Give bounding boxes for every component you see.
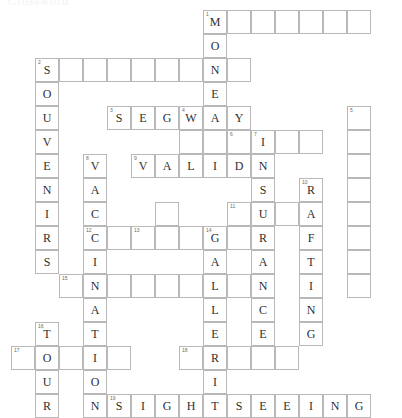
crossword-cell[interactable] — [227, 58, 251, 82]
crossword-cell[interactable] — [347, 154, 371, 178]
crossword-cell[interactable] — [347, 226, 371, 250]
crossword-cell[interactable]: L — [203, 274, 227, 298]
crossword-cell[interactable] — [323, 10, 347, 34]
crossword-cell[interactable]: N — [203, 58, 227, 82]
crossword-cell[interactable] — [275, 346, 299, 370]
crossword-cell[interactable]: 17 — [11, 346, 35, 370]
crossword-cell[interactable]: Y — [227, 106, 251, 130]
crossword-cell[interactable] — [83, 58, 107, 82]
crossword-cell[interactable]: O — [203, 34, 227, 58]
crossword-cell[interactable] — [347, 274, 371, 298]
crossword-cell[interactable]: 18 — [179, 346, 203, 370]
crossword-cell[interactable] — [59, 346, 83, 370]
crossword-cell[interactable] — [179, 58, 203, 82]
crossword-cell[interactable]: U — [35, 370, 59, 394]
crossword-cell[interactable]: A — [251, 250, 275, 274]
crossword-cell[interactable]: E — [251, 322, 275, 346]
crossword-cell[interactable]: I — [131, 394, 155, 418]
crossword-cell[interactable]: 15 — [59, 274, 83, 298]
crossword-cell[interactable]: N — [299, 298, 323, 322]
crossword-cell[interactable]: L — [179, 154, 203, 178]
crossword-cell[interactable] — [275, 202, 299, 226]
crossword-cell[interactable]: R — [203, 346, 227, 370]
crossword-cell[interactable]: G — [155, 106, 179, 130]
crossword-cell[interactable] — [227, 346, 251, 370]
crossword-cell[interactable]: V — [35, 130, 59, 154]
crossword-cell[interactable]: I — [203, 154, 227, 178]
crossword-cell[interactable]: A — [83, 298, 107, 322]
crossword-cell[interactable] — [131, 58, 155, 82]
crossword-cell[interactable] — [227, 274, 251, 298]
crossword-cell[interactable]: S — [227, 394, 251, 418]
crossword-cell[interactable]: U — [35, 106, 59, 130]
crossword-cell[interactable] — [155, 226, 179, 250]
crossword-cell[interactable]: N — [251, 154, 275, 178]
crossword-cell[interactable]: E — [251, 394, 275, 418]
crossword-cell[interactable]: 14G — [203, 226, 227, 250]
crossword-cell[interactable]: R — [35, 394, 59, 418]
crossword-cell[interactable] — [155, 58, 179, 82]
crossword-cell[interactable] — [179, 274, 203, 298]
crossword-cell[interactable] — [227, 10, 251, 34]
crossword-cell[interactable]: T — [203, 394, 227, 418]
crossword-cell[interactable]: 16T — [35, 322, 59, 346]
crossword-cell[interactable] — [299, 130, 323, 154]
crossword-cell[interactable]: N — [323, 394, 347, 418]
crossword-cell[interactable]: G — [299, 322, 323, 346]
crossword-cell[interactable]: C — [83, 202, 107, 226]
crossword-cell[interactable]: T — [83, 322, 107, 346]
crossword-cell[interactable]: R — [251, 226, 275, 250]
crossword-cell[interactable]: A — [155, 154, 179, 178]
crossword-cell[interactable]: U — [251, 202, 275, 226]
crossword-cell[interactable]: I — [299, 394, 323, 418]
crossword-cell[interactable]: N — [35, 178, 59, 202]
crossword-cell[interactable] — [155, 274, 179, 298]
crossword-cell[interactable] — [347, 202, 371, 226]
crossword-cell[interactable] — [179, 130, 203, 154]
crossword-cell[interactable]: E — [275, 394, 299, 418]
crossword-cell[interactable]: I — [35, 202, 59, 226]
crossword-cell[interactable]: 9V — [131, 154, 155, 178]
crossword-cell[interactable]: N — [83, 394, 107, 418]
crossword-cell[interactable]: E — [203, 82, 227, 106]
crossword-cell[interactable]: E — [203, 322, 227, 346]
crossword-cell[interactable]: E — [35, 154, 59, 178]
crossword-cell[interactable]: O — [35, 346, 59, 370]
crossword-cell[interactable]: 5 — [347, 106, 371, 130]
crossword-cell[interactable]: I — [299, 274, 323, 298]
crossword-cell[interactable]: 10R — [299, 178, 323, 202]
crossword-cell[interactable] — [275, 130, 299, 154]
crossword-cell[interactable]: I — [83, 250, 107, 274]
crossword-cell[interactable]: C — [251, 298, 275, 322]
crossword-cell[interactable]: N — [251, 274, 275, 298]
crossword-cell[interactable]: 19S — [107, 394, 131, 418]
crossword-cell[interactable] — [155, 202, 179, 226]
crossword-cell[interactable] — [347, 178, 371, 202]
crossword-cell[interactable]: E — [131, 106, 155, 130]
crossword-cell[interactable]: A — [203, 250, 227, 274]
crossword-cell[interactable] — [251, 346, 275, 370]
crossword-cell[interactable] — [179, 226, 203, 250]
crossword-cell[interactable] — [251, 10, 275, 34]
crossword-cell[interactable]: H — [179, 394, 203, 418]
crossword-cell[interactable]: S — [251, 178, 275, 202]
crossword-cell[interactable] — [203, 130, 227, 154]
crossword-cell[interactable]: T — [299, 250, 323, 274]
crossword-cell[interactable] — [107, 346, 131, 370]
crossword-cell[interactable]: I — [83, 346, 107, 370]
crossword-cell[interactable]: G — [347, 394, 371, 418]
crossword-cell[interactable]: A — [203, 106, 227, 130]
crossword-cell[interactable] — [347, 250, 371, 274]
crossword-cell[interactable]: S — [35, 250, 59, 274]
crossword-cell[interactable]: 3S — [107, 106, 131, 130]
crossword-cell[interactable] — [347, 130, 371, 154]
crossword-cell[interactable] — [107, 274, 131, 298]
crossword-cell[interactable]: D — [227, 154, 251, 178]
crossword-cell[interactable]: R — [35, 226, 59, 250]
crossword-cell[interactable]: A — [299, 202, 323, 226]
crossword-cell[interactable]: I — [203, 370, 227, 394]
crossword-cell[interactable]: O — [83, 370, 107, 394]
crossword-cell[interactable]: 13 — [131, 226, 155, 250]
crossword-cell[interactable]: F — [299, 226, 323, 250]
crossword-cell[interactable]: 2S — [35, 58, 59, 82]
